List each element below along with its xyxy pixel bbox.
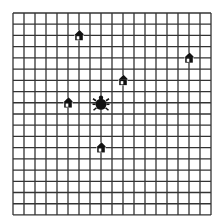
coordinate-grid: [0, 0, 221, 224]
house-icon: [119, 75, 128, 86]
grid-board: [0, 0, 221, 224]
house-icon: [97, 142, 106, 153]
house-icon: [185, 52, 194, 63]
house-icon: [64, 97, 73, 108]
house-icon: [75, 30, 84, 41]
grid-lines: [13, 13, 211, 215]
